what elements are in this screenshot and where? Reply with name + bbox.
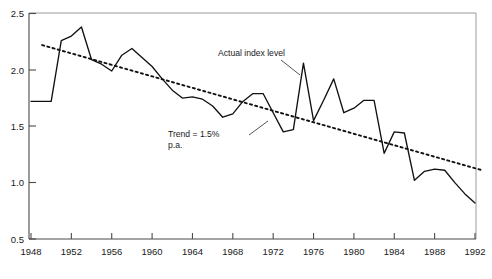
y-tick-label-2.5: 2.5 <box>11 8 24 19</box>
annotation-actual-index-level: Actual index level <box>218 48 300 75</box>
x-tick-label-1980: 1980 <box>343 246 364 257</box>
x-tick-label-1964: 1964 <box>182 246 203 257</box>
annotation-label-trend-line1: Trend = 1.5% <box>168 129 220 139</box>
x-tick-label-1992: 1992 <box>464 246 485 257</box>
leader-line <box>281 60 300 75</box>
x-tick-label-1972: 1972 <box>263 246 284 257</box>
x-tick-label-1976: 1976 <box>303 246 324 257</box>
x-tick-label-1960: 1960 <box>142 246 163 257</box>
series-line-trend <box>42 45 482 170</box>
x-axis-tick-labels: 1948195219561960196419681972197619801984… <box>20 246 485 257</box>
x-tick-label-1988: 1988 <box>424 246 445 257</box>
chart-figure: 2.5 2.0 1.5 1.0 0.5 19481952195619601964… <box>0 0 492 279</box>
x-axis-ticks <box>31 233 475 239</box>
y-axis-tick-labels: 2.5 2.0 1.5 1.0 0.5 <box>11 8 24 245</box>
axis-lines <box>29 13 476 239</box>
leader-line <box>249 121 268 135</box>
y-axis-ticks <box>29 14 36 240</box>
y-tick-label-0.5: 0.5 <box>11 234 24 245</box>
annotation-trend: Trend = 1.5% p.a. <box>168 121 268 150</box>
x-tick-label-1948: 1948 <box>20 246 41 257</box>
y-tick-label-1.5: 1.5 <box>11 121 24 132</box>
y-tick-label-1.0: 1.0 <box>11 177 24 188</box>
line-chart: 2.5 2.0 1.5 1.0 0.5 19481952195619601964… <box>0 0 492 279</box>
annotation-label-trend-line2: p.a. <box>168 140 182 150</box>
x-tick-label-1956: 1956 <box>101 246 122 257</box>
y-tick-label-2.0: 2.0 <box>11 65 24 76</box>
x-tick-label-1968: 1968 <box>222 246 243 257</box>
x-tick-label-1952: 1952 <box>61 246 82 257</box>
annotation-label-actual-index-level: Actual index level <box>218 48 285 58</box>
x-tick-label-1984: 1984 <box>384 246 405 257</box>
plot-frame <box>29 13 476 239</box>
